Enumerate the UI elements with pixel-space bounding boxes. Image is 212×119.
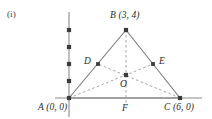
segment-median-AE (69, 64, 153, 98)
point-marker-O (124, 73, 128, 77)
point-marker-A (67, 96, 71, 100)
axis-marker-point-y3 (67, 45, 71, 49)
point-label-a: A (0, 0) (38, 103, 67, 113)
point-marker-E (151, 62, 155, 66)
point-marker-B (124, 28, 128, 32)
point-marker-C (178, 96, 182, 100)
axis-marker-point-y1 (67, 79, 71, 83)
axis-marker-point-y4 (67, 28, 71, 32)
point-marker-D (96, 62, 100, 66)
axis-marker-point-y2 (67, 62, 71, 66)
segment-median-CD (98, 64, 180, 98)
point-label-f: F (122, 104, 128, 114)
point-label-d: D (84, 57, 91, 67)
geometry-figure: (i) B (3, 4) D E O A (0, 0) F C (6, 0) (0, 0, 212, 119)
point-label-o: O (120, 80, 127, 90)
point-label-c: C (6, 0) (164, 103, 194, 113)
point-label-b: B (3, 4) (110, 11, 140, 21)
point-label-e: E (159, 57, 165, 67)
part-label: (i) (7, 10, 16, 19)
